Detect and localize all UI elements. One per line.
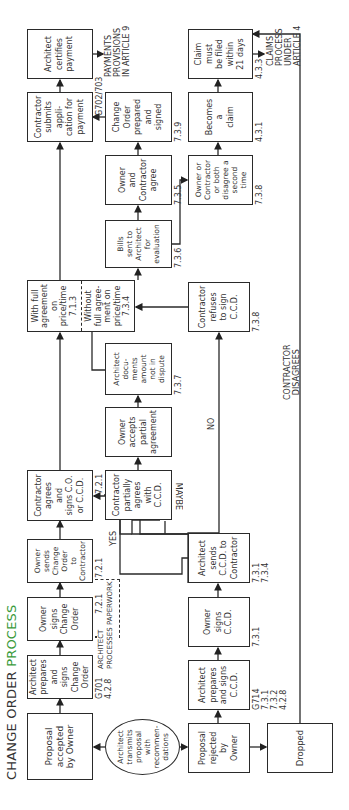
ref-721-b: 7.2.1 (95, 558, 104, 578)
ref-737: 7.3.7 (174, 375, 183, 395)
change-order-flowchart: CHANGE ORDER PROCESS (0, 0, 349, 810)
ref-g701: G701 4.2.8 (95, 678, 113, 699)
ref-735: 7.3.5 (174, 185, 183, 205)
contractor-disagrees-note: CONTRACTOR DISAGREES (283, 344, 301, 400)
branch-no-label: NO (207, 418, 216, 430)
ref-721-c: 7.2.1 (95, 474, 104, 494)
architect-certifies-box: Architect certifies payment (27, 29, 93, 79)
ref-738-a: 7.3.8 (252, 312, 261, 332)
claim-filed-box: Claim must be filed within 21 days (188, 29, 253, 79)
architect-prepares-co-box: Architect prepares and signs Change Orde… (27, 655, 93, 699)
contractor-partially-agrees-box: Contractor partially agrees with C.C.D. (105, 470, 172, 520)
ref-731-734: 7.3.1 7.3.4 (252, 563, 270, 583)
branch-yes-label: YES (109, 531, 118, 546)
owner-accepts-partial-box: Owner accepts partial agreement (105, 407, 172, 457)
change-order-prepared-box: Change Order prepared and signed (105, 92, 172, 142)
owner-sends-co-box: Owner sends Change Order to Contractor (27, 539, 93, 583)
architect-documents-box: Architect docu- ments amount not in disp… (105, 343, 172, 395)
dropped-box: Dropped (267, 723, 333, 773)
architect-transmits-ellipse: Architect transmits proposal with recomm… (105, 719, 180, 775)
agreement-split-box: With full agreement on price/time 7.1.3 … (27, 280, 135, 332)
proposal-rejected-box: Proposal rejected by Owner (188, 723, 250, 773)
ref-431: 4.3.1 (255, 122, 264, 142)
contractor-refuses-box: Contractor refuses to sign C.C.D. (188, 282, 250, 332)
with-full-agreement: With full agreement on price/time 7.1.3 (28, 281, 82, 331)
owner-signs-co-box: Owner signs Change Order (27, 597, 93, 641)
becomes-claim-box: Becomes a claim (188, 92, 253, 142)
ref-738-b: 7.3.8 (255, 185, 264, 205)
ref-g714: G714 7.3.1 7.3.2 4.2.8 (252, 689, 288, 710)
disagree-second-time-box: Owner or Contractor or both disagree a s… (188, 155, 253, 205)
ref-721-a: 7.2.1 (95, 594, 104, 614)
without-full-agreement: Without full agree- ment on price/time 7… (82, 281, 135, 331)
owner-signs-ccd-box: Owner signs C.C.D. (188, 597, 250, 647)
ref-736: 7.3.6 (174, 248, 183, 268)
proposal-accepted-box: Proposal accepted by Owner (27, 713, 93, 780)
architect-prepares-ccd-box: Architect prepares and signs C.C.D. (188, 660, 250, 710)
ref-731: 7.3.1 (252, 627, 261, 647)
bills-sent-box: Bills sent to Architect for evaluation (105, 220, 172, 268)
owner-contractor-agree-box: Owner and Contractor agree (105, 155, 172, 205)
contractor-agrees-box: Contractor agrees and signs C.O. or C.C.… (27, 470, 93, 521)
ref-433: 4.3.3 (255, 59, 264, 79)
contractor-submits-box: Contractor submits appli- cation for pay… (27, 92, 93, 142)
payments-note: PAYMENTS PROVISIONS IN ARTICLE 9 (104, 26, 131, 77)
branch-maybe-label: MAYBE (174, 483, 183, 510)
ref-739: 7.3.9 (174, 122, 183, 142)
ref-g702: G702/703 (95, 77, 104, 116)
architect-sends-ccd-box: Architect sends C.C.D. to Contractor (188, 533, 250, 583)
claims-note: CLAIMS PROCESS UNDER ARTICLE 4 (266, 26, 302, 66)
